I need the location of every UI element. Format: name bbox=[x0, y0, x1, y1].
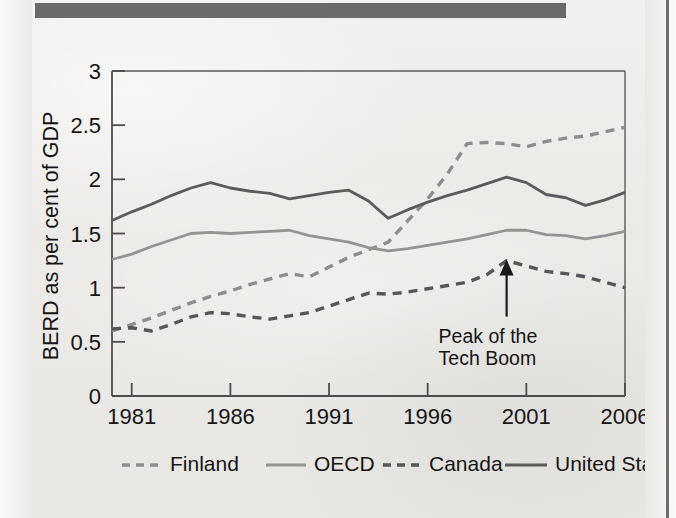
series-line-oecd bbox=[112, 230, 625, 259]
annotation-text-line-2: Tech Boom bbox=[439, 347, 537, 369]
series-line-canada bbox=[112, 261, 625, 331]
annotation-text-line-1: Peak of the bbox=[439, 325, 538, 347]
annotation-arrow-head bbox=[500, 260, 514, 276]
y-tick-label: 2.5 bbox=[70, 113, 101, 138]
data-series-group bbox=[112, 127, 625, 331]
y-tick-label: 1.5 bbox=[70, 222, 101, 247]
x-tick-label: 1981 bbox=[107, 404, 156, 429]
scanned-page: BERD as per cent of GDP 00.511.522.53 19… bbox=[0, 0, 676, 518]
series-line-finland bbox=[112, 127, 625, 331]
x-axis-tick-labels: 198119861991199620012006 bbox=[107, 404, 645, 429]
y-axis-title: BERD as per cent of GDP bbox=[39, 112, 63, 361]
x-axis-tick-marks bbox=[132, 383, 625, 396]
y-tick-label: 1 bbox=[89, 276, 101, 301]
x-tick-label: 1996 bbox=[403, 404, 452, 429]
y-tick-label: 0 bbox=[89, 384, 101, 409]
chart-legend: FinlandOECDCanadaUnited States bbox=[122, 452, 645, 475]
chart-svg: BERD as per cent of GDP 00.511.522.53 19… bbox=[0, 18, 645, 518]
legend-label-oecd: OECD bbox=[314, 452, 375, 475]
header-rule-bar bbox=[35, 3, 566, 18]
x-tick-label: 2001 bbox=[502, 404, 551, 429]
legend-label-canada: Canada bbox=[429, 452, 503, 475]
page-right-margin bbox=[645, 0, 676, 518]
y-axis-tick-marks bbox=[112, 71, 125, 342]
y-axis-tick-labels: 00.511.522.53 bbox=[70, 59, 101, 409]
legend-label-united-states: United States bbox=[555, 452, 645, 475]
y-tick-label: 2 bbox=[89, 167, 101, 192]
legend-label-finland: Finland bbox=[170, 452, 239, 475]
y-tick-label: 0.5 bbox=[70, 330, 101, 355]
page-edge-line bbox=[666, 0, 669, 518]
line-chart: BERD as per cent of GDP 00.511.522.53 19… bbox=[0, 18, 645, 518]
x-tick-label: 1991 bbox=[305, 404, 354, 429]
x-tick-label: 2006 bbox=[601, 404, 645, 429]
y-tick-label: 3 bbox=[89, 59, 101, 84]
series-line-united-states bbox=[112, 177, 625, 220]
x-tick-label: 1986 bbox=[206, 404, 255, 429]
